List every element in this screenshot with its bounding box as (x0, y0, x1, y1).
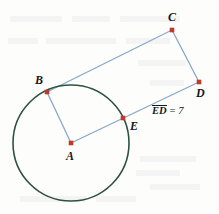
point-label-b: B (35, 74, 43, 86)
point-marker-group (45, 28, 202, 146)
segment-cd (172, 30, 199, 82)
geometry-figure: A B C D E ED = 7 (0, 0, 219, 214)
point-label-d: D (196, 87, 205, 99)
point-marker-e (121, 116, 126, 121)
point-marker-c (170, 28, 175, 33)
segment-ab-radius (47, 92, 71, 143)
point-marker-a (69, 141, 74, 146)
ed-measure-label: ED = 7 (152, 105, 184, 117)
ed-equals-text: = (167, 105, 178, 116)
point-label-e: E (130, 120, 138, 132)
point-marker-b (45, 90, 50, 95)
ed-value-text: 7 (178, 105, 183, 116)
point-label-a: A (66, 150, 74, 162)
segment-group (47, 30, 199, 143)
point-marker-d (197, 80, 202, 85)
point-label-c: C (168, 11, 176, 23)
ed-segment-text: ED (152, 105, 167, 117)
geometry-canvas (0, 0, 219, 214)
segment-bc (47, 30, 172, 92)
